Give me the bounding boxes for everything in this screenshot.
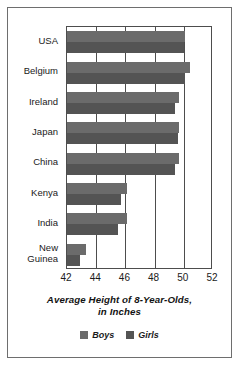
category-label-new-guinea: NewGuinea [27,243,58,264]
x-tick-label-42: 42 [60,272,71,283]
bar-girls-japan [67,133,178,144]
category-label-line: USA [38,35,58,46]
bar-girls-ireland [67,103,175,114]
bar-group [67,240,212,269]
bar-girls-usa [67,42,184,53]
bar-girls-belgium [67,73,185,84]
bar-boys-china [67,153,179,164]
category-label-usa: USA [38,36,58,47]
category-label-india: India [37,218,58,229]
bar-girls-kenya [67,194,121,205]
chart-title-line-2: in Inches [98,306,141,317]
bar-group [67,149,212,179]
bar-boys-kenya [67,183,127,194]
x-tick-label-46: 46 [119,272,130,283]
chart-title: Average Height of 8-Year-Olds, in Inches [12,294,227,318]
category-axis-labels: USABelgiumIrelandJapanChinaKenyaIndiaNew… [4,26,62,269]
bar-group [67,209,212,239]
chart-figure: USABelgiumIrelandJapanChinaKenyaIndiaNew… [0,0,239,365]
category-label-belgium: Belgium [24,66,58,77]
plot-wrapper [66,26,212,269]
plot-area [66,26,212,269]
legend-item-girls[interactable]: Girls [126,330,159,340]
bar-boys-new-guinea [67,244,86,255]
bar-group [67,57,212,87]
bar-boys-ireland [67,92,179,103]
bar-boys-india [67,213,127,224]
legend-swatch-boys [80,331,88,339]
category-label-line: Kenya [31,187,58,198]
bars-layer [67,27,212,269]
category-label-line: China [33,156,58,167]
bar-boys-belgium [67,62,190,73]
category-label-kenya: Kenya [31,188,58,199]
category-label-line: New [39,242,58,253]
x-tick-label-44: 44 [90,272,101,283]
category-label-line: Belgium [24,65,58,76]
bar-group [67,27,212,57]
category-label-line: India [37,217,58,228]
x-tick-label-50: 50 [177,272,188,283]
legend-item-boys[interactable]: Boys [80,330,114,340]
category-label-line: Japan [32,126,58,137]
x-tick-label-52: 52 [206,272,217,283]
category-label-china: China [33,157,58,168]
chart-title-line-1: Average Height of 8-Year-Olds, [47,294,192,305]
category-label-japan: Japan [32,127,58,138]
bar-group [67,179,212,209]
x-axis-tick-labels: 424446485052 [66,272,212,286]
bar-girls-china [67,164,175,175]
bar-girls-new-guinea [67,255,80,266]
legend-label-girls: Girls [138,330,159,340]
bar-group [67,88,212,118]
chart-title-block: Average Height of 8-Year-Olds, in Inches [12,294,227,318]
legend-label-boys: Boys [92,330,114,340]
category-label-ireland: Ireland [29,97,58,108]
category-label-line: Guinea [27,253,58,264]
bar-girls-india [67,224,118,235]
x-tick-label-48: 48 [148,272,159,283]
chart-legend: BoysGirls [12,330,227,340]
category-label-line: Ireland [29,96,58,107]
legend-swatch-girls [126,331,134,339]
bar-boys-usa [67,31,185,42]
bar-group [67,118,212,148]
bar-boys-japan [67,122,179,133]
